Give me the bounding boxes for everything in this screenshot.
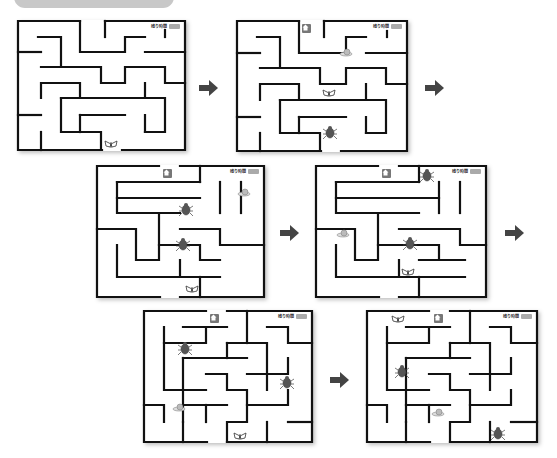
- timer-value: [296, 314, 307, 319]
- home-icon[interactable]: [210, 314, 219, 323]
- arrow-right-icon: [425, 80, 445, 96]
- timer: 残り時間: [278, 313, 307, 319]
- maze-walls: [315, 165, 487, 298]
- maze-walls: [366, 310, 538, 443]
- home-icon[interactable]: [382, 169, 391, 178]
- timer-value: [521, 314, 532, 319]
- section-banner: [14, 0, 174, 8]
- timer: 残り時間: [452, 168, 481, 174]
- maze-panel-6: 残り時間: [366, 310, 538, 443]
- maze-walls: [236, 20, 408, 152]
- timer-value: [470, 169, 481, 174]
- timer-value: [169, 24, 180, 29]
- timer: 残り時間: [373, 23, 402, 29]
- maze-panel-1: 残り時間: [17, 20, 186, 151]
- timer-value: [391, 24, 402, 29]
- maze-panel-5: 残り時間: [143, 310, 313, 443]
- timer-label: 残り時間: [230, 168, 246, 174]
- timer-label: 残り時間: [503, 313, 519, 319]
- arrow-right-icon: [280, 225, 300, 241]
- timer: 残り時間: [230, 168, 259, 174]
- maze-panel-3: 残り時間: [96, 165, 265, 298]
- timer-label: 残り時間: [452, 168, 468, 174]
- timer-label: 残り時間: [151, 23, 167, 29]
- timer: 残り時間: [503, 313, 532, 319]
- arrow-right-icon: [505, 225, 525, 241]
- maze-walls: [17, 20, 186, 151]
- maze-panel-4: 残り時間: [315, 165, 487, 298]
- timer-label: 残り時間: [278, 313, 294, 319]
- home-icon[interactable]: [163, 169, 172, 178]
- maze-walls: [96, 165, 265, 298]
- timer-label: 残り時間: [373, 23, 389, 29]
- home-icon[interactable]: [434, 314, 443, 323]
- timer-value: [248, 169, 259, 174]
- arrow-right-icon: [199, 80, 219, 96]
- timer: 残り時間: [151, 23, 180, 29]
- maze-panel-2: 残り時間: [236, 20, 408, 152]
- arrow-right-icon: [330, 372, 350, 388]
- maze-walls: [143, 310, 313, 443]
- home-icon[interactable]: [302, 24, 311, 33]
